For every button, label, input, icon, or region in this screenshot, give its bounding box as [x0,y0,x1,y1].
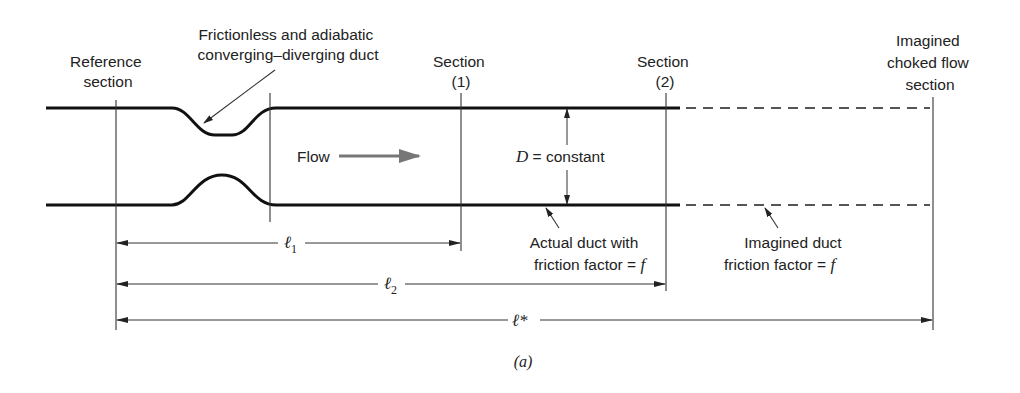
dimension-l1: ℓ1 [117,233,460,256]
lstar-label: ℓ* [512,311,528,330]
choked-section-label: Imagined choked flow section [887,32,973,93]
nozzle-label: Frictionless and adiabatic converging–di… [198,26,380,63]
l2-label: ℓ2 [384,274,397,297]
dimension-lstar: ℓ* [117,311,932,330]
figure-caption: (a) [514,353,533,371]
diameter-label: D = constant [515,147,605,166]
section-2-label: Section (2) [637,53,693,90]
actual-duct-friction-label: friction factor = f [534,255,647,274]
imagined-duct-leader-arrow [765,208,778,228]
nozzle-leader-arrow [204,70,275,123]
flow-label: Flow [297,148,331,165]
imagined-duct-label: Imagined duct [744,234,842,251]
l1-label: ℓ1 [284,233,297,256]
actual-duct-label: Actual duct with [530,234,639,251]
choked-flow-duct-diagram: Reference section Frictionless and adiab… [0,0,1020,393]
dimension-l2: ℓ2 [117,274,665,297]
reference-section-label: Reference section [70,53,146,90]
imagined-duct-friction-label: friction factor = f [724,255,837,274]
section-1-label: Section (1) [433,53,489,90]
duct-top-wall [46,108,680,135]
duct-bottom-wall [46,175,680,205]
actual-duct-leader-arrow [546,208,559,228]
